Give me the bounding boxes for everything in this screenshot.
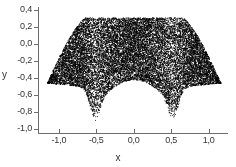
y-tick-label: -1,0 bbox=[2, 124, 32, 133]
x-tick-label: 1,0 bbox=[192, 136, 226, 145]
plot-area bbox=[38, 8, 228, 133]
x-tick-label: 0,0 bbox=[117, 136, 151, 145]
x-tick-mark bbox=[134, 129, 135, 134]
x-tick-label: -0,5 bbox=[79, 136, 113, 145]
y-tick-mark bbox=[34, 10, 39, 11]
x-axis-title: x bbox=[0, 152, 236, 163]
x-tick-mark bbox=[171, 129, 172, 134]
y-tick-mark bbox=[34, 129, 39, 130]
x-tick-mark bbox=[209, 129, 210, 134]
y-tick-label: 0,4 bbox=[2, 5, 32, 14]
y-tick-mark bbox=[34, 112, 39, 113]
x-tick-mark bbox=[96, 129, 97, 134]
y-tick-mark bbox=[34, 78, 39, 79]
y-axis-title: y bbox=[2, 69, 7, 80]
x-tick-label: -1,0 bbox=[42, 136, 76, 145]
scatter-points-layer bbox=[38, 8, 228, 133]
x-tick-label: 0,5 bbox=[154, 136, 188, 145]
y-tick-mark bbox=[34, 61, 39, 62]
y-tick-label: 0,0 bbox=[2, 39, 32, 48]
y-tick-label: -0,6 bbox=[2, 90, 32, 99]
scatter-plot-figure: 0,40,20,0-0,2-0,4-0,6-0,8-1,0 -1,0-0,50,… bbox=[0, 0, 236, 167]
y-tick-label: 0,2 bbox=[2, 22, 32, 31]
y-tick-mark bbox=[34, 95, 39, 96]
x-tick-mark bbox=[59, 129, 60, 134]
y-tick-mark bbox=[34, 44, 39, 45]
y-tick-mark bbox=[34, 27, 39, 28]
y-tick-label: -0,2 bbox=[2, 56, 32, 65]
y-tick-label: -0,8 bbox=[2, 107, 32, 116]
